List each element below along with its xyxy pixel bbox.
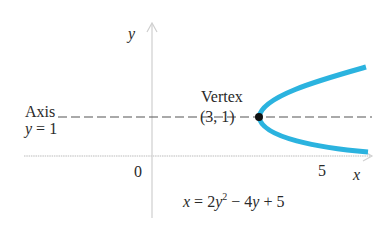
equation-minus: − 4 bbox=[227, 193, 252, 210]
equation-label: x = 2y2 − 4y + 5 bbox=[183, 194, 284, 210]
axis-equation-label: y = 1 bbox=[25, 121, 57, 137]
vertex-coordinates-label: (3, 1) bbox=[200, 109, 235, 125]
equation-eq: = 2 bbox=[190, 193, 215, 210]
vertex-label: Vertex bbox=[201, 89, 243, 105]
equation-tail: + 5 bbox=[259, 193, 284, 210]
origin-label: 0 bbox=[134, 164, 142, 180]
y-axis-label: y bbox=[128, 26, 135, 42]
x-tick-5-label: 5 bbox=[318, 163, 326, 179]
vertex-point bbox=[255, 113, 263, 121]
axis-label: Axis bbox=[25, 104, 55, 120]
x-axis-label: x bbox=[353, 167, 360, 183]
parabola-curve bbox=[259, 67, 368, 152]
axis-equation-rest: = 1 bbox=[32, 120, 57, 137]
